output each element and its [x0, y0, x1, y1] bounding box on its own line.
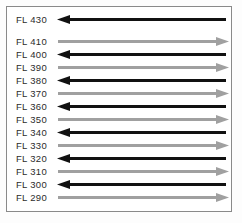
arrow-right-icon: [57, 87, 229, 100]
flight-level-row: FL 320: [7, 152, 231, 165]
flight-level-row: FL 290: [7, 191, 231, 204]
flight-level-row: FL 360: [7, 100, 231, 113]
flight-level-row: FL 390: [7, 61, 231, 74]
flight-level-row: FL 340: [7, 126, 231, 139]
arrow-left-icon: [57, 178, 229, 191]
flight-level-row: FL 350: [7, 113, 231, 126]
flight-level-diagram: FL 430FL 410FL 400FL 390FL 380FL 370FL 3…: [0, 0, 242, 223]
flight-level-row: FL 380: [7, 74, 231, 87]
flight-level-row: FL 370: [7, 87, 231, 100]
arrow-left-icon: [57, 74, 229, 87]
arrow-right-icon: [57, 191, 229, 204]
arrow-right-icon: [57, 35, 229, 48]
arrow-left-icon: [57, 13, 229, 26]
arrow-right-icon: [57, 61, 229, 74]
arrow-right-icon: [57, 139, 229, 152]
arrow-left-icon: [57, 100, 229, 113]
flight-level-row: FL 400: [7, 48, 231, 61]
arrow-left-icon: [57, 126, 229, 139]
flight-level-rows: FL 430FL 410FL 400FL 390FL 380FL 370FL 3…: [7, 7, 231, 211]
arrow-right-icon: [57, 165, 229, 178]
flight-level-row: FL 430: [7, 13, 231, 26]
arrow-right-icon: [57, 113, 229, 126]
diagram-frame: FL 430FL 410FL 400FL 390FL 380FL 370FL 3…: [6, 6, 232, 212]
flight-level-row: FL 310: [7, 165, 231, 178]
arrow-left-icon: [57, 152, 229, 165]
flight-level-row: FL 410: [7, 35, 231, 48]
arrow-left-icon: [57, 48, 229, 61]
flight-level-row: FL 330: [7, 139, 231, 152]
flight-level-row: FL 300: [7, 178, 231, 191]
